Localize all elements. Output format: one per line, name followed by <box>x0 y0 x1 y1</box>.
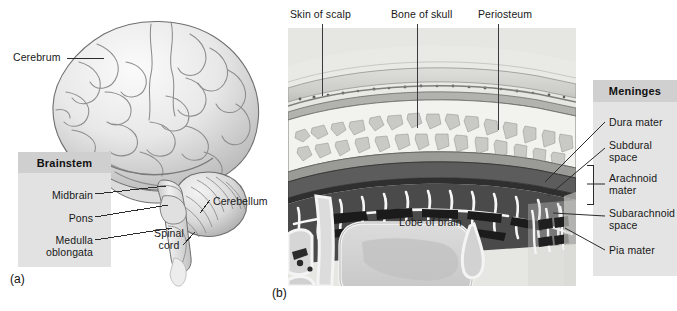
figure-letter-b: (b) <box>272 286 287 300</box>
label-cerebellum: Cerebellum <box>213 196 268 208</box>
cross-section-illustration <box>288 28 576 286</box>
figure-letter-a: (a) <box>10 272 25 286</box>
lower-left-lobe-2 <box>288 277 314 286</box>
label-pons: Pons <box>18 213 93 225</box>
label-subdural-space: Subdural space <box>609 140 652 163</box>
label-dura-mater: Dura mater <box>609 117 663 129</box>
label-periosteum: Periosteum <box>478 9 532 21</box>
anatomy-figure: Brainstem Midbrain Pons Medulla oblongat… <box>0 0 677 311</box>
left-fissure <box>316 196 333 286</box>
label-cerebrum: Cerebrum <box>13 52 60 64</box>
arachnoid-bracket <box>587 165 594 205</box>
label-arachnoid-mater: Arachnoid mater <box>609 173 657 196</box>
label-skin-of-scalp: Skin of scalp <box>290 9 351 21</box>
label-spinal-cord: Spinal cord <box>145 228 193 251</box>
label-subarachnoid-space: Subarachnoid space <box>609 208 675 231</box>
label-bone-of-skull: Bone of skull <box>391 9 452 21</box>
panel-b-meninges-cross-section: Skin of scalp Bone of skull Periosteum L… <box>282 0 677 311</box>
label-medulla-oblongata: Medulla oblongata <box>18 235 93 258</box>
label-midbrain: Midbrain <box>18 190 93 202</box>
brainstem-header-label: Brainstem <box>18 152 111 173</box>
label-pia-mater: Pia mater <box>609 245 655 257</box>
meninges-header-label: Meninges <box>593 80 677 102</box>
label-lobe-of-brain: Lobe of brain <box>399 217 462 229</box>
cross-section-art <box>288 28 576 286</box>
panel-a-lateral-brain: Brainstem Midbrain Pons Medulla oblongat… <box>0 0 282 311</box>
